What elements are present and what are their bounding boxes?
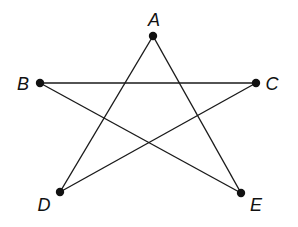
label-E: E bbox=[250, 195, 263, 215]
segment-A-D bbox=[60, 36, 153, 192]
points bbox=[36, 32, 260, 197]
label-B: B bbox=[17, 74, 29, 94]
point-A bbox=[149, 32, 157, 40]
label-C: C bbox=[266, 74, 280, 94]
point-E bbox=[237, 189, 245, 197]
point-C bbox=[252, 79, 260, 87]
labels: A B C D E bbox=[17, 10, 280, 215]
point-B bbox=[36, 79, 44, 87]
label-D: D bbox=[38, 195, 51, 215]
segment-C-D bbox=[60, 83, 256, 192]
segments bbox=[40, 36, 256, 193]
pentagram-diagram: A B C D E bbox=[0, 0, 298, 227]
point-D bbox=[56, 188, 64, 196]
label-A: A bbox=[147, 10, 160, 30]
